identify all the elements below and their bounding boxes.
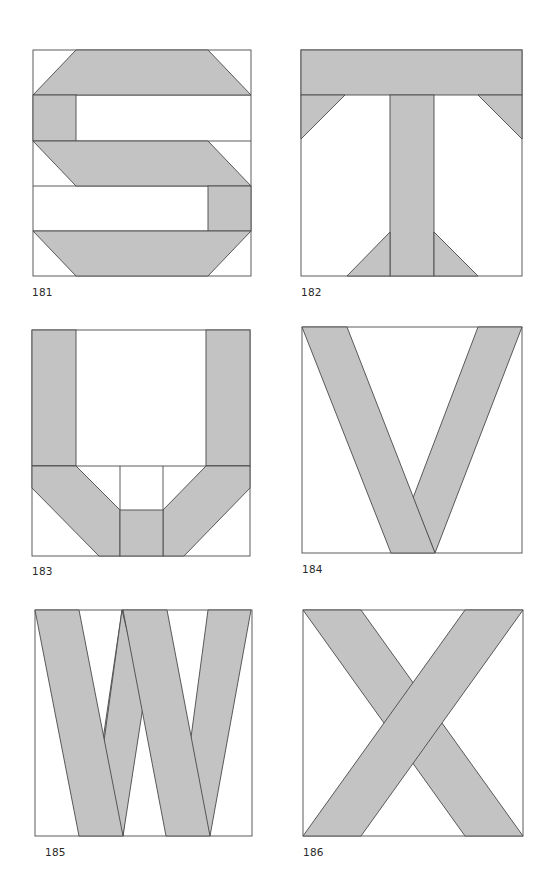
quilt-block-x xyxy=(0,0,548,893)
block-x-drawing xyxy=(0,0,548,893)
block-number-186: 186 xyxy=(303,846,324,858)
